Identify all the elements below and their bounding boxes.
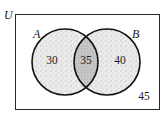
set-a-label: A bbox=[33, 28, 40, 40]
region-b-only-value: 40 bbox=[114, 55, 126, 67]
region-neither-value: 45 bbox=[138, 91, 150, 103]
universe-label: U bbox=[4, 9, 13, 21]
region-a-only-value: 30 bbox=[46, 55, 58, 67]
region-intersection-value: 35 bbox=[80, 55, 92, 67]
set-b-label: B bbox=[132, 28, 139, 40]
